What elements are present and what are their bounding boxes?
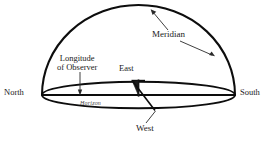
label-west: West [136, 124, 154, 133]
label-east: East [119, 64, 134, 73]
label-horizon: Horizon [80, 100, 101, 106]
label-longitude-of-observer: Longitude of Observer [57, 54, 97, 72]
label-south-text: South [240, 87, 260, 97]
label-east-text: East [119, 63, 134, 73]
label-longitude-line2: of Observer [57, 63, 97, 72]
label-north-text: North [4, 87, 24, 97]
label-north: North [4, 88, 24, 97]
label-south: South [240, 88, 260, 97]
label-west-text: West [136, 123, 154, 133]
label-meridian: Meridian [152, 30, 185, 39]
label-meridian-text: Meridian [152, 29, 185, 39]
label-horizon-text: Horizon [80, 100, 101, 106]
